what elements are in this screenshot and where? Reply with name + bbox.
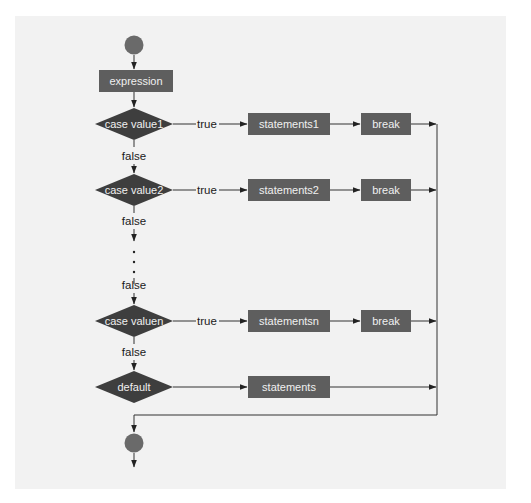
break2-label: break [372,184,400,196]
exit-merge-line [134,124,437,415]
switch-flowchart: expression case value1 true statements1 … [0,0,531,503]
casen-condition: case valuen [105,315,164,327]
case2-diamond: case value2 [95,174,173,206]
default-statements-box: statements [248,376,330,398]
case2-false-label: false [122,215,146,227]
expression-label: expression [109,75,162,87]
case1-diamond: case value1 [95,108,173,140]
case2-condition: case value2 [105,184,164,196]
expression-box: expression [99,70,173,92]
break1-label: break [372,118,400,130]
default-diamond: default [95,371,173,403]
breakn-box: break [361,310,411,332]
end-node-icon [125,434,144,453]
case1-condition: case value1 [105,118,164,130]
break1-box: break [361,113,411,135]
case1-true-label: true [197,118,217,130]
statements2-box: statements2 [248,179,330,201]
case1-false-label: false [122,150,146,162]
statementsn-label: statementsn [259,315,319,327]
casen-true-label: true [197,315,217,327]
break2-box: break [361,179,411,201]
statements1-label: statements1 [259,118,319,130]
statementsn-box: statementsn [248,310,330,332]
breakn-label: break [372,315,400,327]
casen-diamond: case valuen [95,305,173,337]
casen-false-label: false [122,346,146,358]
case2-true-label: true [197,184,217,196]
default-condition: default [117,381,150,393]
ellipsis-false-label: false [122,279,146,291]
statements2-label: statements2 [259,184,319,196]
start-node-icon [125,36,144,55]
statements1-box: statements1 [248,113,330,135]
default-statements-label: statements [262,381,316,393]
